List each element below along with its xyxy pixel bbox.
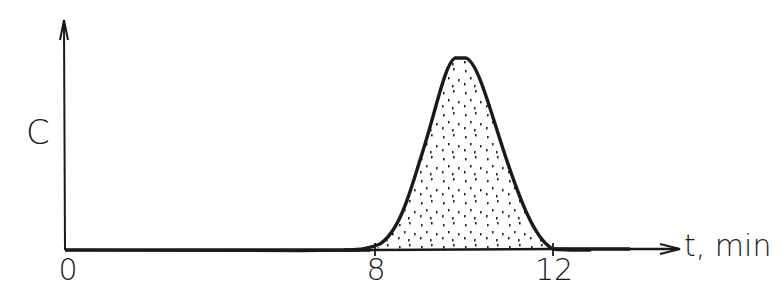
concentration-pulse-chart — [0, 0, 783, 301]
x-tick-label-8: 8 — [366, 252, 385, 287]
x-axis-label: t, min — [684, 228, 771, 263]
peak-area-fill — [375, 58, 553, 249]
x-tick-label-12: 12 — [535, 252, 573, 287]
x-tick-label-0: 0 — [58, 252, 77, 287]
y-axis-label: C — [26, 112, 50, 152]
y-axis — [64, 24, 65, 250]
